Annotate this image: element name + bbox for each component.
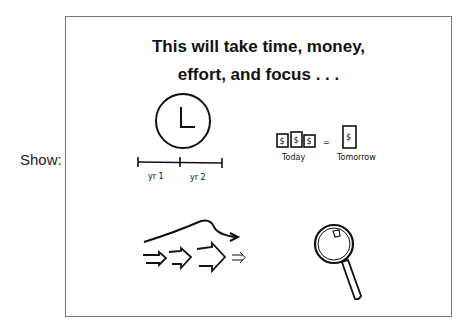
dollar-symbol: $ — [346, 133, 351, 142]
dollar-bills-icon: $ $ $ = $ Today Tomorrow — [276, 125, 396, 175]
magnifying-glass-icon — [306, 220, 386, 310]
svg-text:$: $ — [307, 137, 312, 146]
title-line-2: effort, and focus . . . — [66, 61, 451, 89]
timeline-label-yr1: yr 1 — [148, 172, 164, 181]
clock-icon: yr 1 yr 2 — [136, 95, 236, 185]
timeline-label-yr2: yr 2 — [190, 173, 206, 182]
equals-sign: = — [323, 138, 330, 147]
arrows-effort-icon — [126, 227, 246, 297]
show-label: Show: — [20, 151, 62, 168]
slide-title: This will take time, money, effort, and … — [66, 33, 451, 89]
svg-text:$: $ — [280, 137, 285, 146]
today-label: Today — [281, 153, 305, 162]
tomorrow-label: Tomorrow — [336, 153, 376, 162]
title-line-1: This will take time, money, — [66, 33, 451, 61]
svg-text:$: $ — [294, 136, 299, 145]
slide-frame: This will take time, money, effort, and … — [65, 16, 452, 317]
